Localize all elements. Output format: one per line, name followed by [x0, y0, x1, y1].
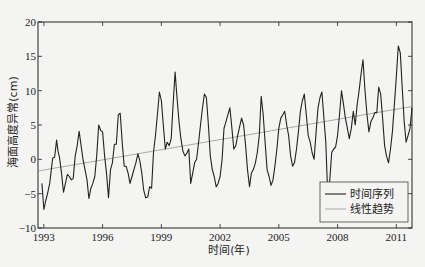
x-tick-label: 2005: [268, 231, 291, 243]
legend: 时间序列 线性趋势: [320, 182, 408, 222]
x-tick-label: 1996: [92, 231, 115, 243]
y-tick-label: 10: [25, 85, 37, 97]
x-tick-label: 2008: [327, 231, 350, 243]
x-tick-label: 1993: [33, 231, 56, 243]
y-tick-label: −5: [24, 188, 36, 200]
x-tick-label: 2002: [209, 231, 231, 243]
y-axis-title: 海面高度异常(cm): [6, 76, 20, 167]
x-axis-title: 时间(年): [208, 243, 250, 257]
y-tick-label: 0: [31, 153, 37, 165]
chart: −10−505101520 19931996199920022005200820…: [0, 0, 425, 267]
legend-label-trend: 线性趋势: [350, 202, 394, 216]
y-tick-label: 15: [25, 50, 37, 62]
y-tick-label: 5: [31, 119, 37, 131]
x-tick-label: 1999: [150, 231, 173, 243]
legend-label-series: 时间序列: [350, 187, 394, 201]
y-tick-label: 20: [25, 16, 37, 28]
x-tick-label: 2011: [386, 231, 408, 243]
